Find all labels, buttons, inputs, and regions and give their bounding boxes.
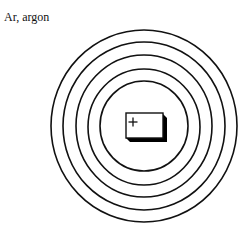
atom-diagram (0, 0, 250, 242)
nucleus (126, 113, 167, 142)
nucleus-box (126, 113, 163, 138)
